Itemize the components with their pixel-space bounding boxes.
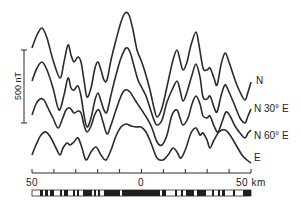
normal-polarity-block: [212, 190, 214, 196]
normal-polarity-block: [243, 190, 251, 196]
normal-polarity-block: [64, 190, 68, 196]
normal-polarity-block: [73, 190, 75, 196]
label-n30e: N 30° E: [254, 104, 289, 114]
profile-curves: [32, 12, 251, 163]
normal-polarity-block: [233, 190, 235, 196]
normal-polarity-block: [50, 190, 54, 196]
normal-polarity-block: [40, 190, 43, 196]
label-n: N: [256, 76, 263, 86]
x-tick-label-center: 0: [138, 178, 144, 188]
normal-polarity-block: [162, 190, 166, 196]
normal-polarity-block: [98, 190, 100, 196]
normal-polarity-block: [122, 190, 125, 196]
x-axis-ticks: [32, 169, 251, 173]
normal-polarity-block: [77, 190, 79, 196]
normal-polarity-block: [222, 190, 225, 196]
label-n60e: N 60° E: [254, 131, 289, 141]
normal-polarity-block: [125, 190, 160, 196]
normal-polarity-block: [60, 190, 62, 196]
normal-polarity-block: [83, 190, 92, 196]
normal-polarity-block: [218, 190, 220, 196]
normal-polarity-block: [197, 190, 206, 196]
normal-polarity-block: [45, 190, 48, 196]
normal-polarity-block: [181, 190, 183, 196]
label-e: E: [254, 153, 261, 163]
x-tick-label-right: 50 km: [236, 178, 266, 188]
profile-e: [32, 124, 251, 163]
normal-polarity-block: [94, 190, 96, 196]
normal-polarity-block: [175, 190, 177, 196]
normal-polarity-block: [104, 190, 120, 196]
profile-n-60-e: [32, 90, 251, 146]
polarity-stripe-bar: [32, 190, 251, 196]
profile-n: [32, 12, 251, 117]
scale-bar-label: 500 nT: [13, 72, 23, 100]
normal-polarity-block: [186, 190, 194, 196]
x-tick-label-left: 50: [26, 178, 38, 188]
